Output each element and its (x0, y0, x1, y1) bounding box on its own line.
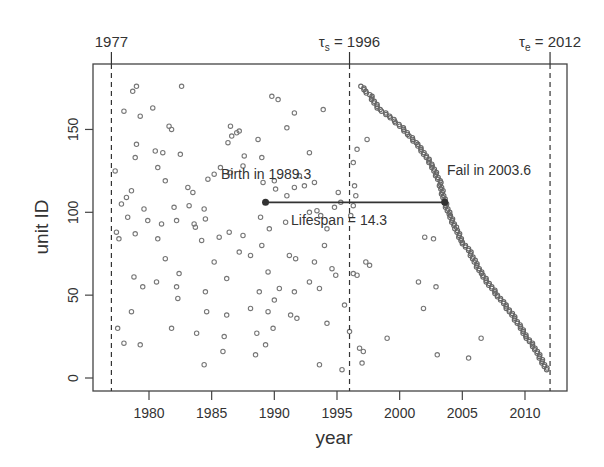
data-point (321, 107, 325, 111)
data-point (317, 363, 321, 367)
data-point (322, 243, 326, 247)
data-point (292, 290, 296, 294)
data-point (161, 150, 165, 154)
data-point (421, 306, 425, 310)
data-point (172, 205, 176, 209)
reference-label: 1977 (95, 33, 128, 50)
data-point (227, 230, 231, 234)
data-point (133, 155, 137, 159)
reference-label: τs = 1996 (319, 33, 380, 53)
data-point (138, 114, 142, 118)
data-point (131, 89, 135, 93)
data-point (212, 260, 216, 264)
data-point (270, 94, 274, 98)
data-point (342, 303, 346, 307)
data-point (307, 280, 311, 284)
data-point (242, 154, 246, 158)
data-point (295, 316, 299, 320)
data-point (186, 185, 190, 189)
data-point (119, 202, 123, 206)
fail-annotation: Fail in 2003.6 (447, 162, 531, 178)
data-point (352, 184, 356, 188)
data-point (203, 290, 207, 294)
data-point (360, 361, 364, 365)
data-point (117, 237, 121, 241)
data-point (336, 190, 340, 194)
data-point (222, 334, 226, 338)
data-point (241, 233, 245, 237)
data-point (248, 306, 252, 310)
data-point (292, 111, 296, 115)
y-tick-label: 0 (65, 374, 81, 382)
data-point (248, 253, 252, 257)
data-point (256, 137, 260, 141)
data-point (347, 329, 351, 333)
data-point (302, 184, 306, 188)
data-point (367, 263, 371, 267)
data-point (202, 207, 206, 211)
data-point (277, 286, 281, 290)
data-point (237, 250, 241, 254)
data-point (466, 356, 470, 360)
data-point (228, 124, 232, 128)
data-point (156, 237, 160, 241)
data-point (317, 286, 321, 290)
data-point (357, 346, 361, 350)
data-point (134, 142, 138, 146)
data-point (156, 165, 160, 169)
fail-point (441, 199, 448, 206)
data-point (285, 194, 289, 198)
x-tick-label: 1980 (133, 405, 164, 421)
data-point (365, 137, 369, 141)
data-point (230, 134, 234, 138)
data-point (416, 280, 420, 284)
birth-point (262, 199, 269, 206)
data-point (285, 126, 289, 130)
data-point (258, 215, 262, 219)
data-point (312, 180, 316, 184)
data-point (204, 310, 208, 314)
data-point (253, 353, 257, 357)
data-point (312, 260, 316, 264)
y-tick-label: 100 (65, 200, 81, 224)
data-point (141, 285, 145, 289)
data-point (176, 296, 180, 300)
data-point (133, 232, 137, 236)
x-tick-label: 2010 (509, 405, 540, 421)
data-point (260, 155, 264, 159)
y-tick-label: 150 (65, 118, 81, 142)
data-point (199, 238, 203, 242)
data-point (351, 203, 355, 207)
data-point (293, 256, 297, 260)
data-point (113, 169, 117, 173)
data-point (255, 331, 259, 335)
data-point (332, 205, 336, 209)
data-point (221, 349, 225, 353)
data-point (271, 326, 275, 330)
x-tick-label: 1995 (321, 405, 352, 421)
failure-curve (359, 84, 549, 372)
data-point (267, 227, 271, 231)
data-point (142, 207, 146, 211)
data-point (385, 336, 389, 340)
data-point (266, 310, 270, 314)
y-axis: 050100150 (65, 118, 93, 382)
data-point (134, 84, 138, 88)
data-point (203, 217, 207, 221)
data-point (177, 271, 181, 275)
data-point (364, 260, 368, 264)
data-point (226, 141, 230, 145)
data-point (423, 235, 427, 239)
data-point (287, 253, 291, 257)
birth-annotation: Birth in 1989.3 (221, 166, 311, 182)
data-point (257, 290, 261, 294)
data-point (355, 273, 359, 277)
data-point (179, 84, 183, 88)
data-point (169, 127, 173, 131)
data-point (187, 203, 191, 207)
data-point (272, 298, 276, 302)
y-axis-label: unit ID (31, 200, 52, 255)
data-point (206, 177, 210, 181)
lifespan-annotation: Lifespan = 14.3 (291, 212, 387, 228)
data-point (122, 109, 126, 113)
